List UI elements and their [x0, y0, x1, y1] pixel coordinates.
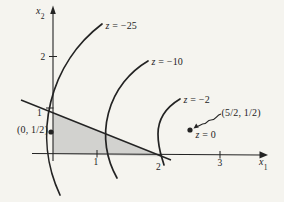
pointer-squiggle-arrow: [198, 114, 221, 126]
x2-axis-arrowhead: [50, 6, 56, 15]
x2-sub: 2: [41, 12, 45, 21]
x2-axis-label: x2: [36, 6, 45, 16]
x1-axis-label: x1: [259, 157, 268, 167]
curve-label-z-10-value: = −10: [156, 56, 183, 67]
point-label-5half-half: (5/2, 1/2): [222, 108, 261, 118]
curve-label-z-25: z = −25: [106, 21, 138, 31]
x2-var: x: [36, 5, 41, 16]
level-curve-z-25: [47, 24, 102, 195]
figure: x2 x1 1 2 1 2 3 z = −25 z = −10 z = −2 (…: [0, 0, 284, 202]
curve-label-z-2: z = −2: [184, 95, 210, 105]
curve-label-z-2-value: = −2: [188, 94, 210, 105]
curve-label-z-25-value: = −25: [110, 20, 137, 31]
point-label-0-half: (0, 1/2): [17, 125, 48, 135]
x1-tick-label-3: 3: [218, 158, 223, 168]
x1-tick-label-2: 2: [156, 162, 161, 172]
x1-sub: 1: [264, 163, 268, 172]
point-label-z-0-value: = 0: [200, 129, 216, 140]
point-dot-0-half: [48, 129, 53, 134]
level-curve-z-2: [158, 99, 180, 165]
plot-svg: [0, 0, 284, 202]
curve-label-z-10: z = −10: [152, 57, 184, 67]
point-dot-5half-half: [187, 127, 192, 132]
x2-tick-label-1: 1: [37, 108, 42, 118]
level-curve-z-10: [106, 61, 148, 178]
point-label-z-0: z = 0: [196, 130, 217, 140]
x2-tick-label-2: 2: [41, 52, 46, 62]
x1-axis: [32, 154, 261, 156]
x1-var: x: [259, 156, 264, 167]
x1-tick-label-1: 1: [94, 157, 99, 167]
